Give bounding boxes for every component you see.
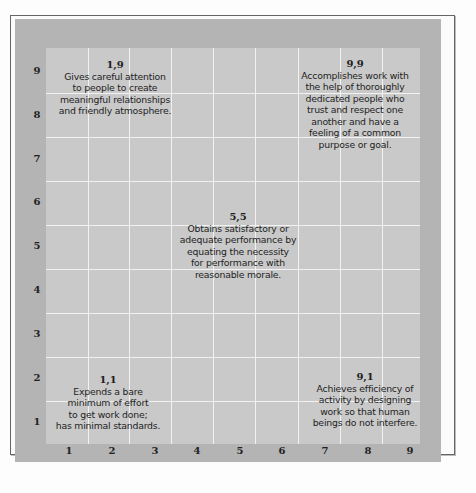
- style-1-9-description: Gives careful attention to people to cre…: [50, 71, 180, 117]
- x-tick: 6: [275, 445, 289, 456]
- y-tick: 1: [30, 416, 44, 427]
- x-tick: 2: [105, 445, 119, 456]
- x-tick: 3: [148, 445, 162, 456]
- style-5-5-description: Obtains satisfactory or adequate perform…: [168, 223, 308, 281]
- style-1-1-description: Expends a bare minimum of effort to get …: [48, 386, 168, 432]
- y-tick: 6: [30, 196, 44, 207]
- style-9-9-description: Accomplishes work with the help of thoro…: [290, 70, 420, 151]
- grid-line-horizontal: [46, 357, 420, 358]
- x-tick: 8: [361, 445, 375, 456]
- y-tick: 8: [30, 109, 44, 120]
- x-tick: 1: [62, 445, 76, 456]
- style-9-1-description: Achieves efficiency of activity by desig…: [305, 383, 425, 429]
- style-9-9-coord: 9,9: [290, 58, 420, 70]
- y-tick: 3: [30, 328, 44, 339]
- y-tick: 5: [30, 240, 44, 251]
- style-9-1-label: 9,1 Achieves efficiency of activity by d…: [305, 371, 425, 429]
- y-tick: 4: [30, 284, 44, 295]
- style-9-1-coord: 9,1: [305, 371, 425, 383]
- y-tick: 9: [30, 65, 44, 76]
- x-tick: 4: [190, 445, 204, 456]
- style-1-9-label: 1,9 Gives careful attention to people to…: [50, 59, 180, 117]
- style-1-1-label: 1,1 Expends a bare minimum of effort to …: [48, 374, 168, 432]
- x-tick: 9: [403, 445, 417, 456]
- style-1-9-coord: 1,9: [50, 59, 180, 71]
- style-1-1-coord: 1,1: [48, 374, 168, 386]
- style-9-9-label: 9,9 Accomplishes work with the help of t…: [290, 58, 420, 150]
- x-tick: 5: [233, 445, 247, 456]
- grid-line-horizontal: [46, 313, 420, 314]
- y-tick: 7: [30, 153, 44, 164]
- style-5-5-coord: 5,5: [168, 211, 308, 223]
- y-tick: 2: [30, 372, 44, 383]
- grid-line-horizontal: [46, 181, 420, 182]
- style-5-5-label: 5,5 Obtains satisfactory or adequate per…: [168, 211, 308, 280]
- x-tick: 7: [318, 445, 332, 456]
